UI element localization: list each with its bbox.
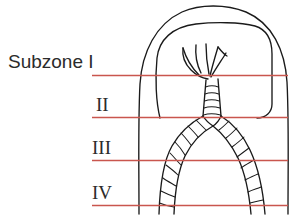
right-branch-outer-wall (221, 116, 265, 214)
left-branch-ring-8 (161, 191, 175, 197)
trunk-ring-1 (206, 86, 219, 87)
trunk-ring-4 (204, 107, 220, 108)
trunk-ring-3 (205, 100, 220, 101)
right-branch-ring-7 (248, 187, 261, 192)
left-branch-ring-7 (163, 178, 176, 186)
trunk-right-wall (218, 79, 221, 116)
trunk-ring-2 (205, 93, 219, 94)
crown-prong-3 (206, 44, 209, 74)
subzone-4-label: IV (92, 182, 112, 203)
trunk-ring-5 (204, 114, 221, 115)
subzone-diagram-figure: Subzone I II III IV (0, 0, 301, 216)
right-branch-ring-4 (237, 148, 249, 157)
left-branch-ring-2 (188, 126, 198, 137)
right-branch-ring-2 (226, 128, 237, 138)
crown-prong-2 (196, 45, 201, 73)
crown-prong-inner-right (218, 47, 227, 56)
right-branch-inner-wall (213, 126, 251, 214)
left-branch-inner-wall (174, 126, 213, 214)
left-branch-ring-1 (196, 120, 206, 130)
right-branch-ring-3 (232, 137, 244, 147)
subzone-1-label: Subzone I (8, 51, 94, 72)
inner-chamber-outline (156, 23, 272, 118)
right-branch-ring-6 (245, 174, 258, 180)
left-branch-ring-5 (170, 153, 181, 165)
left-branch-ring-3 (181, 133, 191, 145)
left-branch-ring-4 (175, 142, 185, 155)
subzone-3-label: III (92, 137, 111, 158)
right-branch-ring-1 (219, 121, 229, 130)
diagram-canvas: Subzone I II III IV (0, 0, 301, 216)
left-branch-ring-6 (166, 165, 178, 175)
trunk-left-wall (203, 80, 206, 116)
subzone-2-label: II (96, 94, 109, 115)
right-branch-ring-8 (250, 200, 263, 203)
